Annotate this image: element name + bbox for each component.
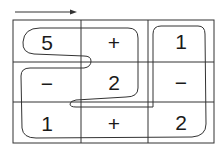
cell-r3c3: 2 [175,111,187,134]
cell-r2c1: − [41,72,53,95]
cell-r3c2: + [108,112,120,135]
cell-r1c1: 5 [41,31,53,54]
grid-cells: 5 + 1 − 2 − 1 + 2 [41,30,187,135]
cell-r2c3: − [175,71,187,94]
cell-r1c2: + [108,31,120,54]
cell-r1c3: 1 [175,30,187,53]
grid-path-diagram: 5 + 1 − 2 − 1 + 2 [0,0,220,148]
direction-arrow-icon [15,10,77,15]
cell-r2c2: 2 [108,71,120,94]
cell-r3c1: 1 [41,112,53,135]
